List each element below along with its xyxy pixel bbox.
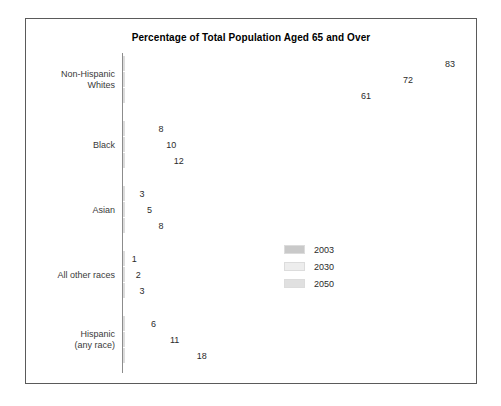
category-label-line: Whites	[61, 80, 115, 91]
bar-2030[interactable]	[123, 72, 125, 87]
bar-value-label: 1	[132, 254, 137, 264]
bar-2030[interactable]	[123, 202, 125, 217]
bar-2030[interactable]	[123, 267, 125, 282]
chart-frame: Percentage of Total Population Aged 65 a…	[25, 18, 477, 384]
category-label-line: Non-Hispanic	[61, 69, 115, 80]
bar-2003[interactable]	[123, 56, 125, 71]
category-group: Hispanic(any race)61118	[122, 316, 477, 364]
category-label: Non-HispanicWhites	[61, 69, 115, 91]
bar-row: 10	[123, 137, 161, 152]
chart-title: Percentage of Total Population Aged 65 a…	[26, 32, 476, 43]
bar-value-label: 2	[136, 270, 141, 280]
legend-label: 2003	[314, 245, 334, 255]
bar-value-label: 18	[197, 351, 207, 361]
bar-row: 12	[123, 153, 169, 168]
legend-item[interactable]: 2050	[284, 275, 334, 292]
bar-row: 83	[123, 56, 440, 71]
category-label: Black	[93, 140, 115, 151]
category-label-line: All other races	[57, 270, 115, 281]
bar-2003[interactable]	[123, 251, 125, 266]
bar-2050[interactable]	[123, 153, 125, 168]
category-label: All other races	[57, 270, 115, 281]
category-label-line: Asian	[92, 205, 115, 216]
legend-label: 2050	[314, 279, 334, 289]
bar-row: 2	[123, 267, 131, 282]
bar-value-label: 8	[159, 124, 164, 134]
bar-2030[interactable]	[123, 332, 125, 347]
bar-row: 11	[123, 332, 165, 347]
bar-value-label: 10	[166, 140, 176, 150]
category-group: Black81012	[122, 121, 477, 169]
legend-label: 2030	[314, 262, 334, 272]
bar-row: 5	[123, 202, 142, 217]
legend-swatch	[284, 279, 305, 288]
bar-value-label: 6	[151, 319, 156, 329]
category-label-line: (any race)	[74, 340, 115, 351]
bar-2003[interactable]	[123, 186, 125, 201]
legend-item[interactable]: 2003	[284, 241, 334, 258]
bar-row: 3	[123, 186, 134, 201]
plot-area: Non-HispanicWhites837261Black81012Asian3…	[122, 53, 477, 383]
bar-value-label: 83	[445, 59, 455, 69]
bar-2050[interactable]	[123, 348, 125, 363]
category-group: Non-HispanicWhites837261	[122, 56, 477, 104]
bar-row: 72	[123, 72, 398, 87]
legend-swatch	[284, 262, 305, 271]
category-label-line: Black	[93, 140, 115, 151]
legend-item[interactable]: 2030	[284, 258, 334, 275]
bar-value-label: 12	[174, 156, 184, 166]
bar-2050[interactable]	[123, 88, 125, 103]
bar-2050[interactable]	[123, 283, 125, 298]
bar-row: 3	[123, 283, 134, 298]
bar-2030[interactable]	[123, 137, 125, 152]
category-group: Asian358	[122, 186, 477, 234]
bar-2050[interactable]	[123, 218, 125, 233]
bar-2003[interactable]	[123, 121, 125, 136]
chart-legend: 200320302050	[284, 241, 334, 292]
bar-value-label: 3	[139, 189, 144, 199]
category-label: Asian	[92, 205, 115, 216]
bar-value-label: 8	[159, 221, 164, 231]
category-label: Hispanic(any race)	[74, 329, 115, 351]
bar-row: 1	[123, 251, 127, 266]
bar-row: 8	[123, 218, 154, 233]
bar-row: 8	[123, 121, 154, 136]
bar-value-label: 11	[170, 335, 179, 345]
bar-value-label: 5	[147, 205, 152, 215]
category-label-line: Hispanic	[74, 329, 115, 340]
legend-swatch	[284, 245, 305, 254]
bar-2003[interactable]	[123, 316, 125, 331]
bar-row: 6	[123, 316, 146, 331]
bar-row: 61	[123, 88, 356, 103]
bar-row: 18	[123, 348, 192, 363]
bar-value-label: 3	[139, 286, 144, 296]
bar-value-label: 72	[403, 75, 413, 85]
bar-value-label: 61	[361, 91, 371, 101]
